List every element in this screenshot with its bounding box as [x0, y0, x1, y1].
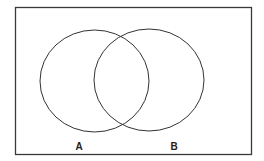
set-a-label: A: [75, 141, 82, 152]
set-b-label: B: [170, 141, 177, 152]
universe-rectangle: [16, 8, 252, 155]
venn-diagram: A B: [0, 0, 264, 161]
